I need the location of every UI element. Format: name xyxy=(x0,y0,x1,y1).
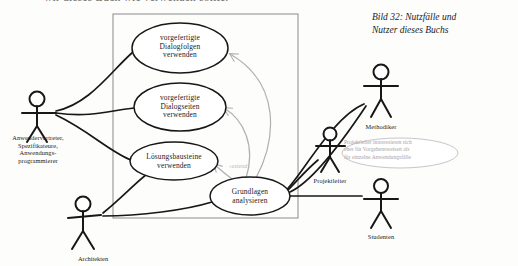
anwender-line2: Spezifikateure, xyxy=(2,142,74,150)
actor-projektleiter[interactable] xyxy=(316,128,345,173)
actor-label-projektleiter: Projektleiter xyxy=(302,177,358,185)
note-line2: eher für Vorgehensweisen als xyxy=(344,146,462,153)
use-case-ellipse-grundlagen[interactable] xyxy=(210,177,290,215)
use-case-ellipse-dialogfolgen[interactable] xyxy=(132,23,228,73)
actor-studenten[interactable] xyxy=(364,179,398,228)
note-line3: für einzelne Anwendungsfälle xyxy=(344,154,462,161)
anwender-line1: Anwendervertreter, xyxy=(2,134,74,142)
anwender-line3: Anwendungs- xyxy=(2,149,74,157)
actor-label-studenten: Studenten xyxy=(352,233,410,241)
actor-methodiker[interactable] xyxy=(364,65,398,118)
figure-page: wir dieses Buch wie verwenden sollte. Bi… xyxy=(0,0,518,266)
use-case-diagram-canvas xyxy=(0,0,518,266)
note-bubble-text: Projektleiter interessieren sich eher fü… xyxy=(344,139,462,161)
actor-label-methodiker: Methodiker xyxy=(351,123,411,131)
actor-label-architekten: Architekten xyxy=(58,255,128,266)
anwender-line4: programmierer xyxy=(2,157,74,165)
use-case-ellipse-loesungsbausteine[interactable] xyxy=(130,142,218,180)
actor-label-anwendervertreter: Anwendervertreter, Spezifikateure, Anwen… xyxy=(2,134,74,164)
extend-stereotype-label: «extend» xyxy=(229,163,250,169)
use-case-ellipse-dialogseiten[interactable] xyxy=(134,83,226,131)
actor-architekten[interactable] xyxy=(68,197,101,250)
note-line1: Projektleiter interessieren sich xyxy=(344,139,462,146)
